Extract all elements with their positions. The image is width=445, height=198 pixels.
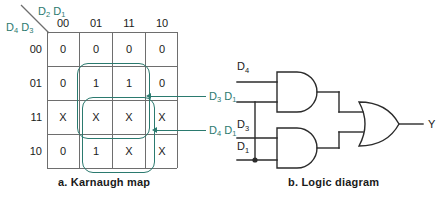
input-label-d1: D1	[237, 140, 249, 155]
or-gate	[359, 102, 399, 146]
row-header-2: 11	[16, 100, 42, 134]
row-header-3: 10	[16, 134, 42, 168]
row-header-0: 00	[16, 32, 42, 66]
col-header-3: 10	[146, 16, 178, 30]
logic-diagram-panel: D4 D3 D1 Y	[225, 0, 445, 175]
col-header-1: 01	[80, 16, 112, 30]
col-header-2: 11	[113, 16, 145, 30]
and-gate-bottom	[277, 128, 317, 168]
annotation-arrow-d4d1	[152, 127, 157, 133]
cell-r0-c3: 0	[146, 32, 178, 66]
group-loop-d4d1	[82, 97, 155, 173]
cell-r0-c0: 0	[47, 32, 79, 66]
cell-r1-c0: 0	[47, 66, 79, 100]
output-label-y: Y	[428, 118, 436, 130]
cell-r0-c2: 0	[113, 32, 145, 66]
caption-logic-diagram: b. Logic diagram	[288, 176, 379, 188]
caption-karnaugh-map: a. Karnaugh map	[58, 176, 150, 188]
input-label-d3: D3	[237, 118, 249, 133]
annotation-line-d4d1	[154, 130, 206, 131]
annotation-arrow-d3d1	[146, 93, 151, 99]
cell-r2-c0: X	[47, 100, 79, 134]
cell-r3-c0: 0	[47, 134, 79, 168]
col-header-0: 00	[47, 16, 79, 30]
annotation-line-d3d1	[148, 96, 206, 97]
input-label-d4: D4	[237, 60, 249, 75]
figure-karnaugh-and-logic: D2 D1 D4 D3 00 01 11 10 00 01 11 10 0	[0, 0, 445, 198]
row-header-1: 01	[16, 66, 42, 100]
cell-r0-c1: 0	[80, 32, 112, 66]
and-gate-top	[277, 72, 317, 112]
junction-dot-d1	[252, 157, 257, 162]
